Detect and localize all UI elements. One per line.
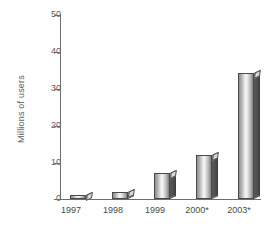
y-tick-30: 30 — [0, 89, 61, 90]
y-tick-label-10: 10 — [17, 157, 61, 167]
y-tick-label-30: 30 — [17, 83, 61, 93]
bar-face — [238, 73, 254, 199]
bar-face — [70, 195, 86, 199]
y-tick-label-0: 0 — [17, 193, 61, 203]
bar-1999 — [154, 173, 176, 199]
bar-1997 — [70, 195, 92, 199]
x-tick-label-2003: 2003* — [209, 205, 269, 215]
bar-2003 — [238, 73, 260, 199]
bar-face — [154, 173, 170, 199]
y-tick-40: 40 — [0, 52, 61, 53]
y-tick-label-20: 20 — [17, 120, 61, 130]
bar-1998 — [112, 192, 134, 199]
bar-chart: Millions of users 50 40 30 20 10 0 — [0, 0, 271, 236]
y-tick-20: 20 — [0, 126, 61, 127]
bar-face — [196, 155, 212, 199]
plot-area — [60, 14, 261, 199]
bar-2000 — [196, 155, 218, 199]
bar-face — [112, 192, 128, 199]
y-tick-label-50: 50 — [17, 9, 61, 19]
y-tick-50: 50 — [0, 15, 61, 16]
y-tick-0: 0 — [0, 199, 61, 200]
y-tick-label-40: 40 — [17, 46, 61, 56]
x-axis-line — [60, 199, 261, 200]
bar-side — [254, 70, 260, 199]
y-tick-10: 10 — [0, 163, 61, 164]
